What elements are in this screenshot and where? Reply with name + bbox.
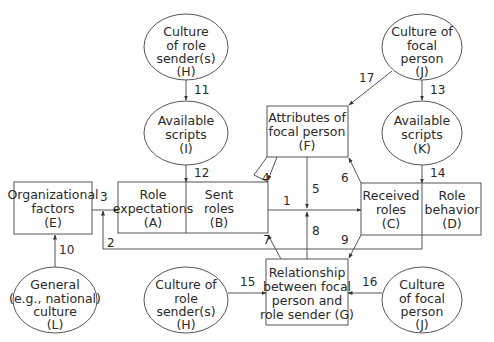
label-line: role sender (G) bbox=[260, 307, 354, 322]
label-line: Available bbox=[394, 113, 451, 128]
edge-6-line bbox=[349, 158, 361, 183]
node-attributes-focal-person: Attributes of focal person (F) bbox=[267, 106, 348, 157]
edge-labels: 1 2 3 4 5 6 7 8 9 10 11 12 13 14 15 16 1… bbox=[59, 71, 445, 289]
edge-label-1: 1 bbox=[283, 194, 291, 208]
label-line: (B) bbox=[210, 215, 228, 230]
node-available-scripts-k: Available scripts (K) bbox=[382, 101, 462, 165]
node-organizational-factors: Organizational factors (E) bbox=[7, 182, 98, 234]
label-line: focal person bbox=[269, 124, 346, 139]
label-line: (J) bbox=[415, 317, 428, 332]
label-line: (D) bbox=[442, 216, 461, 231]
label-line: (I) bbox=[179, 141, 192, 156]
label-line: (E) bbox=[44, 215, 62, 230]
label-line: (L) bbox=[47, 317, 64, 332]
label-line: (J) bbox=[415, 64, 428, 79]
label-line: roles bbox=[204, 201, 234, 216]
label-line: (C) bbox=[382, 216, 400, 231]
label-line: Relationship bbox=[269, 265, 346, 280]
label-line: (H) bbox=[176, 317, 195, 332]
label-line: Received bbox=[363, 188, 420, 203]
label-line: Role bbox=[439, 188, 466, 203]
node-culture-role-sender-top: Culture of role sender(s) (H) bbox=[144, 14, 228, 80]
label-line: Role bbox=[140, 187, 167, 202]
role-episode-diagram: 1 2 3 4 5 6 7 8 9 10 11 12 13 14 15 16 1… bbox=[0, 0, 494, 342]
label-line: person and bbox=[272, 293, 342, 308]
edge-label-12: 12 bbox=[194, 166, 209, 180]
label-line: Culture bbox=[399, 277, 445, 292]
label-line: Culture of bbox=[155, 277, 217, 292]
edge-label-15: 15 bbox=[240, 275, 255, 289]
label-line: Attributes of bbox=[268, 110, 346, 125]
node-culture-focal-person-top: Culture of focal person (J) bbox=[382, 14, 462, 80]
label-line: scripts bbox=[165, 127, 206, 142]
label-line: (A) bbox=[144, 215, 162, 230]
label-line: expectations bbox=[113, 201, 193, 216]
node-role-expectations-sent-roles: Role expectations (A) Sent roles (B) bbox=[113, 182, 268, 233]
node-available-scripts-i: Available scripts (I) bbox=[144, 101, 228, 165]
label-line: (H) bbox=[176, 64, 195, 79]
node-culture-role-sender-bottom: Culture of role sender(s) (H) bbox=[144, 267, 228, 333]
label-line: between focal bbox=[263, 279, 351, 294]
edge-label-8: 8 bbox=[312, 224, 320, 238]
edge-9-line bbox=[349, 235, 361, 258]
node-relationship-focal-role-sender: Relationship between focal person and ro… bbox=[260, 259, 354, 325]
edge-label-11: 11 bbox=[194, 83, 209, 97]
node-received-roles-role-behavior: Received roles (C) Role behavior (D) bbox=[361, 183, 481, 235]
edge-label-14: 14 bbox=[430, 166, 445, 180]
edge-label-9: 9 bbox=[341, 233, 349, 247]
edge-label-13: 13 bbox=[430, 83, 445, 97]
node-general-culture: General (e.g., national) culture (L) bbox=[9, 267, 101, 333]
label-line: Culture of bbox=[391, 24, 453, 39]
label-line: Culture bbox=[163, 24, 209, 39]
label-line: scripts bbox=[401, 127, 442, 142]
edge-label-16: 16 bbox=[362, 275, 377, 289]
edge-label-10: 10 bbox=[59, 243, 74, 257]
edge-label-6: 6 bbox=[341, 171, 349, 185]
label-line: Organizational bbox=[7, 187, 98, 202]
label-line: (K) bbox=[413, 141, 431, 156]
label-line: General bbox=[30, 277, 79, 292]
label-line: Available bbox=[158, 113, 215, 128]
label-line: factors bbox=[31, 201, 74, 216]
edge-label-2: 2 bbox=[107, 236, 115, 250]
edge-label-5: 5 bbox=[312, 182, 320, 196]
edge-label-7: 7 bbox=[263, 233, 271, 247]
edge-label-17: 17 bbox=[359, 71, 374, 85]
label-line: behavior bbox=[425, 202, 481, 217]
label-line: roles bbox=[376, 202, 406, 217]
node-culture-focal-person-bottom: Culture of focal person (J) bbox=[382, 267, 462, 333]
label-line: Sent bbox=[205, 187, 234, 202]
edge-label-3: 3 bbox=[100, 190, 108, 204]
label-line: (F) bbox=[299, 138, 316, 153]
